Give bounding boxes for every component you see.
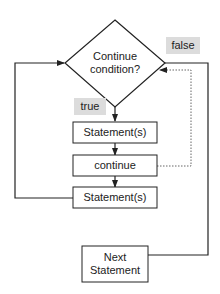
continue-text: continue <box>73 159 157 172</box>
next-line-1: Next <box>82 251 148 264</box>
decision-line-1: Continue <box>75 50 155 63</box>
decision-text: Continue condition? <box>75 50 155 76</box>
next-statement-text: Next Statement <box>82 251 148 277</box>
true-label: true <box>74 98 106 115</box>
statement-2-text: Statement(s) <box>73 191 157 204</box>
decision-line-2: condition? <box>75 63 155 76</box>
next-line-2: Statement <box>82 264 148 277</box>
statement-1-text: Statement(s) <box>73 126 157 139</box>
false-label: false <box>166 37 200 54</box>
